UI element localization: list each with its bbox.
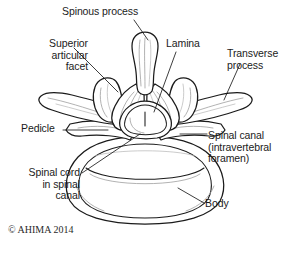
label-superior-articular-facet: Superior articular facet: [8, 38, 88, 73]
copyright-notice: © AHIMA 2014: [8, 224, 73, 235]
label-spinous-process: Spinous process: [62, 6, 138, 18]
label-spinal-cord: Spinal cord in spinal canal: [4, 167, 80, 202]
figure-canvas: .ol { fill:#ffffff; stroke:#1b1b1b; stro…: [0, 0, 291, 253]
label-body: Body: [205, 198, 229, 210]
label-lamina: Lamina: [166, 38, 200, 50]
vertebral-body-shape: [66, 136, 223, 224]
label-transverse-process: Transverse process: [227, 48, 289, 71]
label-pedicle: Pedicle: [21, 123, 55, 135]
label-spinal-canal: Spinal canal (intravertebral foramen): [208, 130, 291, 165]
